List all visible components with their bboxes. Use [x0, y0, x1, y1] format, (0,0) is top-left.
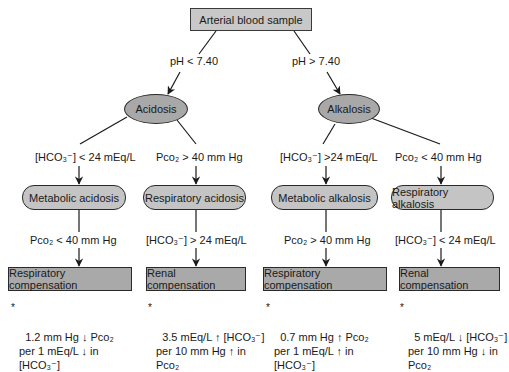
- note-respiratory-compensation-acidosis: * 1.2 mm Hg ↓ Pco₂ per 1 mEq/L ↓ in [HCO…: [19, 302, 114, 372]
- note-renal-compensation-alkalosis: * 5 mEq/L ↓ [HCO₃⁻] per 10 mm Hg ↓ in Pc…: [408, 302, 507, 372]
- acidosis-label: Acidosis: [136, 103, 177, 115]
- note-text: 5 mEq/L ↓ [HCO₃⁻] per 10 mm Hg ↓ in Pco₂: [408, 331, 507, 371]
- alkalosis-node: Alkalosis: [318, 94, 380, 124]
- note-text: 3.5 mEq/L ↑ [HCO₃⁻] per 10 mm Hg ↑ in Pc…: [156, 331, 265, 371]
- respiratory-alkalosis-label: Respiratory alkalosis: [392, 186, 493, 210]
- metabolic-alkalosis-node: Metabolic alkalosis: [271, 185, 378, 210]
- metabolic-acidosis-node: Metabolic acidosis: [22, 185, 126, 210]
- metabolic-alkalosis-label: Metabolic alkalosis: [278, 192, 370, 204]
- note-renal-compensation-acidosis: * 3.5 mEq/L ↑ [HCO₃⁻] per 10 mm Hg ↑ in …: [156, 302, 265, 372]
- metabolic-acidosis-label: Metabolic acidosis: [29, 192, 119, 204]
- renal-compensation-label-1: Renal compensation: [147, 267, 245, 291]
- alkalosis-label: Alkalosis: [327, 103, 370, 115]
- criterion-metabolic-acidosis: [HCO₃⁻] < 24 mEq/L: [35, 151, 136, 164]
- note-bullet: *: [148, 301, 152, 315]
- ph-less-than-label: pH < 7.40: [170, 55, 218, 67]
- ph-greater-than-label: pH > 7.40: [292, 55, 340, 67]
- respiratory-compensation-label-1: Respiratory compensation: [9, 267, 131, 291]
- renal-compensation-node-2: Renal compensation: [399, 267, 500, 291]
- respiratory-compensation-label-2: Respiratory compensation: [264, 267, 386, 291]
- note-bullet: *: [266, 301, 270, 315]
- acidosis-node: Acidosis: [124, 94, 188, 124]
- arterial-blood-sample-label: Arterial blood sample: [199, 14, 302, 26]
- criterion-respiratory-alkalosis: Pco₂ < 40 mm Hg: [395, 151, 482, 163]
- respiratory-acidosis-node: Respiratory acidosis: [143, 185, 246, 210]
- renal-compensation-node-1: Renal compensation: [146, 267, 246, 291]
- respiratory-acidosis-label: Respiratory acidosis: [145, 192, 244, 204]
- note-bullet: *: [400, 301, 404, 315]
- respiratory-compensation-node-2: Respiratory compensation: [263, 267, 387, 291]
- respiratory-compensation-node-1: Respiratory compensation: [8, 267, 132, 291]
- arterial-blood-sample-node: Arterial blood sample: [190, 8, 312, 31]
- criterion-metabolic-alkalosis: [HCO₃⁻] >24 mEq/L: [280, 151, 378, 164]
- renal-compensation-label-2: Renal compensation: [400, 267, 499, 291]
- criterion-respiratory-compensation-2: Pco₂ > 40 mm Hg: [284, 234, 371, 246]
- criterion-renal-compensation-2: [HCO₃⁻] < 24 mEq/L: [395, 234, 496, 247]
- respiratory-alkalosis-node: Respiratory alkalosis: [391, 185, 494, 210]
- note-bullet: *: [11, 301, 15, 315]
- criterion-respiratory-compensation-1: Pco₂ < 40 mm Hg: [30, 234, 117, 246]
- criterion-renal-compensation-1: [HCO₃⁻] > 24 mEq/L: [146, 234, 247, 247]
- note-text: 1.2 mm Hg ↓ Pco₂ per 1 mEq/L ↓ in [HCO₃⁻…: [19, 331, 114, 371]
- note-respiratory-compensation-alkalosis: * 0.7 mm Hg ↑ Pco₂ per 1 mEq/L ↑ in [HCO…: [274, 302, 369, 372]
- criterion-respiratory-acidosis: Pco₂ > 40 mm Hg: [156, 151, 243, 163]
- note-text: 0.7 mm Hg ↑ Pco₂ per 1 mEq/L ↑ in [HCO₃⁻…: [274, 331, 369, 371]
